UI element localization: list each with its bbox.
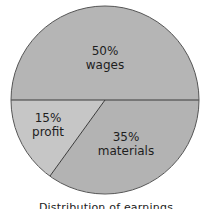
label-materials-percent: 35%: [98, 130, 154, 144]
label-wages-percent: 50%: [86, 44, 124, 58]
pie-chart: 50% wages 35% materials 15% profit Distr…: [0, 0, 212, 209]
label-profit: 15% profit: [32, 111, 64, 139]
label-materials-name: materials: [98, 144, 154, 158]
label-wages: 50% wages: [86, 44, 124, 72]
label-profit-percent: 15%: [32, 111, 64, 125]
pie-chart-svg: [0, 0, 212, 209]
chart-caption: Distribution of earnings: [0, 201, 212, 209]
label-materials: 35% materials: [98, 130, 154, 158]
label-profit-name: profit: [32, 125, 64, 139]
label-wages-name: wages: [86, 58, 124, 72]
